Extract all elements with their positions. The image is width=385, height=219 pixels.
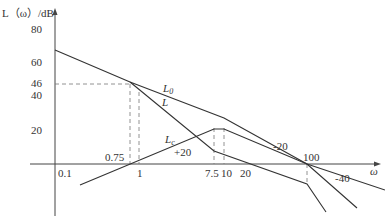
y-tick-80: 80 — [31, 23, 43, 35]
y-tick-40: 40 — [31, 89, 43, 101]
y-axis-label: L（ω）/dB — [2, 7, 54, 19]
bode-plot: L（ω）/dB 80 60 46 40 20 0.1 0.75 1 7.5 10… — [0, 0, 385, 219]
x-tick-0.75: 0.75 — [105, 151, 125, 163]
y-tick-60: 60 — [31, 56, 43, 68]
slope-minus20: -20 — [273, 140, 288, 152]
x-tick-1: 1 — [137, 167, 143, 179]
x-tick-10: 10 — [221, 167, 233, 179]
guide-lines — [55, 84, 307, 184]
x-tick-7.5: 7.5 — [205, 167, 219, 179]
y-tick-20: 20 — [31, 124, 43, 136]
label-Lc: Lc — [164, 133, 175, 147]
slope-plus20: +20 — [174, 146, 192, 158]
series-L0 — [55, 50, 357, 208]
slope-minus40: -40 — [335, 172, 350, 184]
label-L: L — [161, 96, 168, 108]
label-L0: L0 — [162, 82, 173, 96]
x-tick-0.1: 0.1 — [58, 167, 72, 179]
y-tick-46: 46 — [31, 77, 43, 89]
x-tick-100: 100 — [303, 151, 320, 163]
x-axis-label: ω — [370, 165, 378, 177]
x-tick-20: 20 — [240, 167, 252, 179]
series-L — [130, 82, 326, 212]
